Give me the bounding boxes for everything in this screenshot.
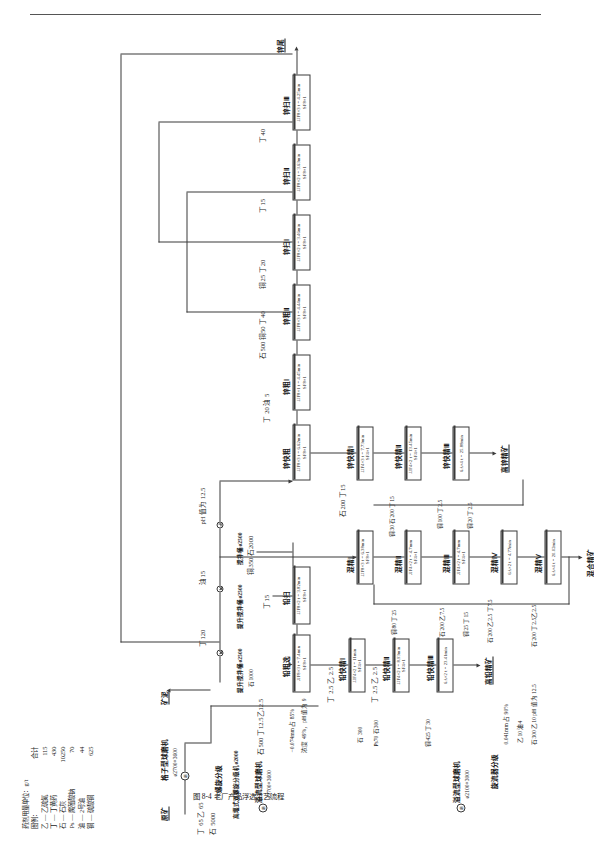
znr-to-cl1 [310,452,356,453]
pb-c2-to-c3 [409,664,436,665]
cell-mix2[interactable]: JJF4×2 t = 4.7mmSF4×1 [404,530,421,584]
zn-rough-feed-arrow [288,479,292,483]
cell-zn-cl3-spec: 6A×4 t = 25.88min [458,427,464,479]
scav1-recycle [186,311,292,312]
cell-pb-scav-label: 铅扫 [282,590,290,604]
equipment-overflow-mill2: 溢流型球磨机 [452,760,460,802]
stream-label-zn-conc: 高锌精矿 [500,444,508,472]
cell-zn-cl2[interactable]: JJF4×2 t = 13.45minSF4×1 [404,426,421,480]
equipment-cyclone-class2: 旋流器分级 [490,753,498,788]
classifier-ov-line [210,709,211,743]
mix3-to-mix4 [469,556,500,557]
cell-mix4-label: 混精Ⅳ [490,552,498,572]
stream-label-feed: 原矿 [160,806,168,820]
cell-zn-scav1[interactable]: JJF8×2 t = 3.46minSF8×1 [292,214,310,270]
legend-title: 图例： [29,776,38,828]
cell-zn-scav2-spec: JJF8×2 t = 3.63minSF8×1 [295,145,306,199]
legend-total-5: 625 [85,746,94,776]
equipment-agitator-3: 搅拌桶ø2500 [236,532,243,564]
overflow-mill-symbol: 磨 [258,803,267,812]
mix1-to-mix2 [373,556,404,557]
classifier-riser [184,742,210,743]
cell-zn-cl1[interactable]: JJF4×3 t = 7.73minSF4×1 [356,426,373,480]
cell-zn-scav2[interactable]: JJF8×2 t = 3.63minSF8×1 [292,144,310,200]
agitator-symbol-1 [216,649,223,656]
mix5-out [561,556,579,557]
mix-return-bus [373,603,569,604]
pb-r-to-c1 [310,664,348,665]
cell-mix4[interactable]: 6A×2 t = 4.77min [500,530,517,584]
reagent-st300: 石 300 [356,726,363,742]
cell-mix3[interactable]: JJF4×2 t = 4.7mmSF4×1 [452,530,469,584]
grind-fineness: −0.074mm 占 85% [288,709,295,753]
reagent-feed-a: 丁 65 乙 65 [196,802,204,834]
reagent-cu80-t25: 铜80 丁25 [390,609,397,634]
cell-zn-rgh1-label: 锌粗Ⅰ [282,378,290,394]
cl1-to-cl2 [373,452,404,453]
cell-mix5[interactable]: 6A×4 t = 20.02min [544,530,561,584]
cell-zn-rgh2[interactable]: JJF8×3 t = 4.44minSF8×1 [292,284,310,340]
cell-pb-clean2-spec: JJF4×2 t = 8.93minSF4×1 [395,639,406,691]
mill-to-classifier-line [184,743,185,771]
reagent-st200-z25-t75: 石200 乙2.5 丁7.5 [486,599,493,642]
equipment-grate-mill-size: ø2700×3600 [171,748,178,776]
reagent-ps70-st300: Ps70 石300 [372,719,379,746]
legend-item-1: 丁 — 丁黄药 [48,776,57,828]
scav2-recycle-h [158,122,159,242]
znr-to-rgh1 [296,410,297,424]
reagent-st200-z75: 石200 乙7.5 [438,607,445,636]
bulk-conc-arrow [578,555,582,559]
cell-zn-cl2-label: 锌快精Ⅱ [394,444,402,468]
cell-mix4-spec: 6A×2 t = 4.77min [506,531,512,583]
scav3-recycle [158,121,292,122]
zn-conc-arrow [492,451,496,455]
reagent-t25z25-a: 丁 2.5 乙 2.5 [326,667,334,702]
equipment-spiral-class: 螺旋分级 [214,764,222,792]
legend-total-1: 430 [48,746,57,776]
legend-total-header: 合计 [29,746,38,776]
reagent-cu425t30: 铜425 丁30 [424,719,431,746]
cell-pb-scav[interactable]: JJF8×2 t = 3.82minSF8×1 [292,566,310,624]
agitator-symbol-2 [216,585,223,592]
pb-rough-tail-line [296,624,297,634]
legend-total-2: 10250 [57,746,66,776]
reagent-cu30-st200-t15: 铜30 石200 丁15 [388,496,395,536]
cell-zn-rough-label: 锌快粗 [282,447,290,468]
cell-zn-cl3[interactable]: 6A×4 t = 25.88min [452,426,469,480]
cell-pb-clean3-spec: 6A×2 t = 23.41min [442,639,448,691]
legend-total-4: 44 [76,746,85,776]
cell-zn-rough-spec: JJF8×3 t = 6.62minSF8×1 [295,425,306,479]
zn-recycle-bus [120,54,121,642]
cell-mix3-spec: JJF4×2 t = 4.7mmSF4×1 [455,531,466,583]
cell-mix1[interactable]: JJF8×3 t = 6.38minSF8×1 [356,530,373,584]
zn-rough-feed [219,480,292,481]
reagent-cu350-st2000: 铜350 石2000 [246,535,254,574]
zn-tail-arrow [294,46,298,50]
equipment-overflow-mill2-size: ø2100×3000 [463,770,470,798]
equipment-lift-agitator-2: 提升搅拌桶ø2500 [236,584,243,628]
legend-item-2: 石 — 石灰 [57,776,66,828]
reagent-st500-cu50-t40: 石500 铜50 丁40 [258,311,266,358]
cell-pb-clean2[interactable]: JJF4×2 t = 8.93minSF4×1 [392,638,409,692]
cell-zn-scav3[interactable]: JJF8×3 t = 4.25minSF8×1 [292,74,310,130]
cell-zn-rgh1[interactable]: JJF8×1 t = 4.45minSF8×1 [292,354,310,410]
agit-line-2 [219,592,220,649]
cell-pb-clean3[interactable]: 6A×2 t = 23.41min [436,638,453,692]
fineness2: 0.041mm 占 90% [502,704,509,744]
pb-c1-to-c2 [365,664,392,665]
zn-scav3-up [120,53,292,54]
legend-item-4: 油 — 2号油 [76,776,85,828]
legend-item-3: Ps — 腐殖酸钠 [66,776,75,828]
mix-return-top [373,584,374,604]
mix5-return-h [568,556,569,604]
stream-label-zn-tail: 锌尾 [276,38,284,52]
cell-pb-clean1[interactable]: JJF4×2 t = 11minSF4×1 [348,638,365,692]
cell-zn-rgh2-spec: JJF8×3 t = 4.44minSF8×1 [295,285,306,339]
stream-label-pb-conc: 高铅精矿 [484,656,492,684]
cell-zn-cl1-spec: JJF4×3 t = 7.73minSF4×1 [359,427,370,479]
reagent-st200-t25-z25: 石200 丁2.5乙2.5 [530,604,537,646]
reagent-z10-oil4: 乙10 油4 [516,720,523,742]
feed-line [184,778,185,814]
cell-pb-rough[interactable]: JJF8×3 t = 7.4minSF8×1 [292,634,310,692]
cell-zn-rough[interactable]: JJF8×3 t = 6.62minSF8×1 [292,424,310,480]
